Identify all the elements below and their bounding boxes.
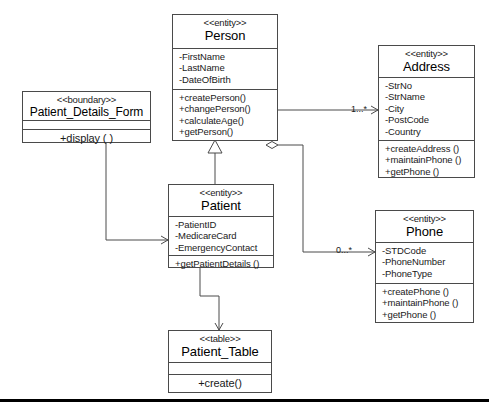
attribute: -City [385,103,474,114]
class-operations-phone: +createPhone () +maintainPhone () +getPh… [376,284,473,323]
multiplicity-address: 1...* [351,104,367,114]
class-header-address: <<entity>> Address [379,46,474,78]
operation: +getPhone () [382,309,473,320]
class-box-address[interactable]: <<entity>> Address -StrNo -StrName -City… [378,45,475,178]
operation: +calculateAge() [179,115,277,126]
relationship-patient-table [200,268,223,330]
class-attributes-patient-details-form [23,121,150,130]
operation: +createAddress () [385,143,474,154]
attribute: -StrName [385,91,474,102]
attribute: -STDCode [382,245,473,256]
attribute: -MedicareCard [175,230,273,241]
multiplicity-phone: 0...* [336,245,352,255]
class-box-patient-details-form[interactable]: <<boundary>> Patient_Details_Form +displ… [22,91,151,143]
class-box-phone[interactable]: <<entity>> Phone -STDCode -PhoneNumber -… [375,210,474,323]
attribute: -PostCode [385,114,474,125]
relationship-form-patient [106,143,168,244]
class-header-patient-details-form: <<boundary>> Patient_Details_Form [23,92,150,121]
class-attributes-phone: -STDCode -PhoneNumber -PhoneType [376,243,473,284]
class-header-person: <<entity>> Person [173,15,277,49]
operation: +getPatientDetails () [175,258,273,269]
class-header-patient-table: <<table>> Patient_Table [169,331,271,363]
class-box-patient-table[interactable]: <<table>> Patient_Table +create() [168,330,272,393]
class-stereotype: <<entity>> [378,213,471,224]
class-attributes-person: -FirstName -LastName -DateOfBirth [173,49,277,90]
class-name: Phone [378,224,471,239]
class-name: Person [175,28,275,43]
operation: +getPerson() [179,126,277,137]
bottom-divider [0,399,489,402]
attribute: -PhoneType [382,268,473,279]
class-attributes-patient-table [169,363,271,375]
operation: +createPhone () [382,286,473,297]
operation: +maintainPhone () [382,297,473,308]
class-stereotype: <<boundary>> [25,94,148,105]
operation: +display ( ) [23,132,150,145]
class-name: Patient_Table [171,344,269,359]
relationship-patient-person [208,140,222,188]
operation: +create() [169,377,271,390]
class-stereotype: <<entity>> [171,187,271,198]
class-name: Patient_Details_Form [25,105,148,119]
attribute: -LastName [179,62,277,73]
operation: +maintainPhone () [385,154,474,165]
class-operations-address: +createAddress () +maintainPhone () +get… [379,141,474,180]
class-header-patient: <<entity>> Patient [169,185,273,217]
class-name: Address [381,59,472,74]
class-box-patient[interactable]: <<entity>> Patient -PatientID -MedicareC… [168,184,274,268]
class-stereotype: <<entity>> [175,17,275,28]
class-header-phone: <<entity>> Phone [376,211,473,243]
operation: +createPerson() [179,92,277,103]
diagram-canvas: <<entity>> Person -FirstName -LastName -… [0,0,489,416]
attribute: -DateOfBirth [179,74,277,85]
class-attributes-patient: -PatientID -MedicareCard -EmergencyConta… [169,217,273,256]
attribute: -StrNo [385,80,474,91]
attribute: -PhoneNumber [382,256,473,267]
attribute: -Country [385,126,474,137]
class-operations-patient-table: +create() [169,375,271,393]
attribute: -FirstName [179,51,277,62]
attribute: -PatientID [175,219,273,230]
class-attributes-address: -StrNo -StrName -City -PostCode -Country [379,78,474,141]
class-operations-patient-details-form: +display ( ) [23,130,150,148]
class-name: Patient [171,198,271,213]
class-box-person[interactable]: <<entity>> Person -FirstName -LastName -… [172,14,278,141]
class-operations-person: +createPerson() +changePerson() +calcula… [173,90,277,141]
relationship-person-phone [266,142,375,257]
class-stereotype: <<table>> [171,333,269,344]
class-operations-patient: +getPatientDetails () [169,256,273,272]
attribute: -EmergencyContact [175,242,273,253]
operation: +changePerson() [179,103,277,114]
operation: +getPhone () [385,166,474,177]
class-stereotype: <<entity>> [381,48,472,59]
